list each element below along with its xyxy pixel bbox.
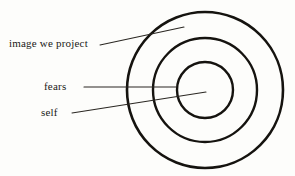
label-self: self — [41, 106, 58, 118]
label-fears: fears — [44, 80, 66, 92]
inner-ring-self — [177, 62, 233, 118]
diagram-canvas: image we project fears self — [0, 0, 295, 176]
outer-ring-image-we-project — [127, 12, 283, 168]
rings-group — [127, 12, 283, 168]
label-image-we-project: image we project — [9, 37, 88, 49]
middle-ring-fears — [153, 38, 257, 142]
